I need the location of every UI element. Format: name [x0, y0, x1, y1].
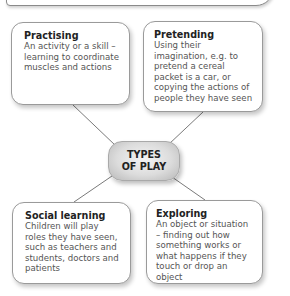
node-title: Social learning [25, 210, 122, 221]
connector-practising [73, 105, 116, 146]
connector-pretending [168, 112, 203, 145]
node-description: An object or situation – finding out how… [156, 219, 254, 283]
center-line-2: OF PLAY [122, 161, 167, 172]
node-title: Practising [24, 30, 121, 41]
node-description: Using their imagination, e.g. to pretend… [154, 40, 254, 104]
node-pretending: Pretending Using their imagination, e.g.… [143, 21, 263, 112]
node-social-learning: Social learning Children will play roles… [12, 202, 131, 284]
node-title: Exploring [156, 208, 254, 219]
node-exploring: Exploring An object or situation – findi… [146, 200, 263, 284]
node-title: Pretending [154, 29, 254, 40]
connector-exploring [172, 177, 205, 200]
center-line-1: TYPES [127, 149, 161, 160]
node-description: An activity or a skill – learning to coo… [24, 41, 121, 73]
node-description: Children will play roles they have seen,… [25, 221, 122, 274]
center-node-types-of-play: TYPES OF PLAY [108, 141, 180, 181]
node-practising: Practising An activity or a skill – lear… [11, 22, 130, 105]
connector-social [74, 176, 112, 202]
